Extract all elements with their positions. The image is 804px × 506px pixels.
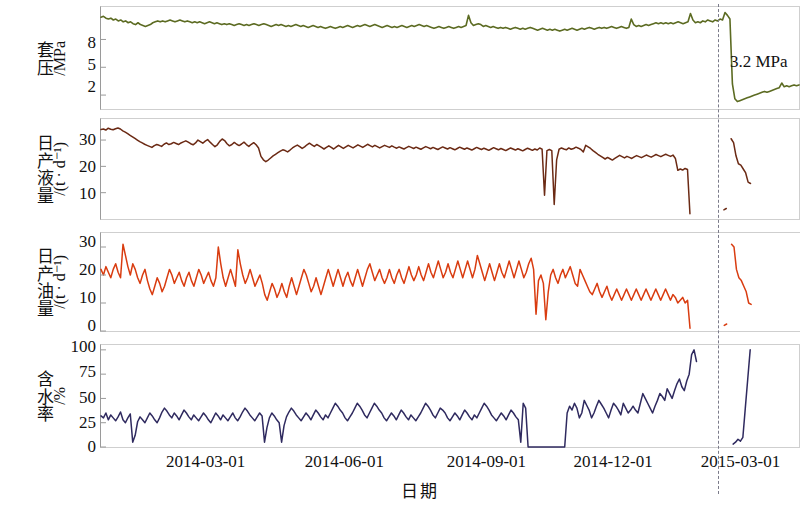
ytick-water-0: 0 (88, 438, 97, 455)
series-line-3 (733, 350, 750, 444)
ytick-column-daily-oil: 30 20 10 0 (50, 232, 96, 332)
xaxis-tick-3: 2014-12-01 (573, 452, 652, 472)
series-line-2 (724, 324, 726, 325)
ytick-liquid-20: 20 (79, 158, 96, 175)
ytick-water-100: 100 (71, 338, 97, 355)
ytick-column-casing-pressure: 8 5 2 (50, 6, 96, 110)
series-line-2 (732, 244, 752, 304)
xaxis-tick-2: 2014-09-01 (447, 452, 526, 472)
ytick-column-water-cut: 100 75 50 25 0 (42, 344, 96, 448)
xaxis-tick-1: 2014-06-01 (305, 452, 384, 472)
series-line-1 (101, 128, 690, 214)
ytick-water-75: 75 (79, 363, 96, 380)
plot-area-water-cut (100, 344, 800, 448)
ytick-water-25: 25 (79, 414, 96, 431)
ytick-liquid-10: 10 (79, 185, 96, 202)
ytick-liquid-30: 30 (79, 131, 96, 148)
plot-area-casing-pressure (100, 6, 800, 110)
ytick-oil-10: 10 (79, 289, 96, 306)
series-line-0 (101, 13, 799, 102)
series-line-1 (724, 208, 726, 209)
xaxis-tick-0: 2014-03-01 (166, 452, 245, 472)
ytick-column-daily-liquid: 30 20 10 (50, 118, 96, 220)
multi-panel-production-chart: 套压/MPa 8 5 2 日产液量/(t · d⁻¹) 30 20 10 日产油… (0, 0, 804, 506)
ytick-water-50: 50 (79, 389, 96, 406)
pressure-annotation-label: 3.2 MPa (730, 52, 788, 72)
ytick-casing-8: 8 (88, 34, 97, 51)
ytick-oil-30: 30 (79, 233, 96, 250)
series-line-1 (731, 139, 750, 184)
plot-area-daily-liquid (100, 118, 800, 220)
ytick-oil-20: 20 (79, 261, 96, 278)
plot-area-daily-oil (100, 232, 800, 332)
series-line-2 (101, 244, 690, 328)
xaxis-tick-4: 2015-03-01 (701, 452, 780, 472)
ytick-oil-0: 0 (88, 317, 97, 334)
xaxis-title: 日期 (401, 477, 439, 502)
series-line-3 (101, 350, 696, 447)
event-marker-line (718, 4, 719, 494)
ytick-casing-5: 5 (88, 56, 97, 73)
ytick-casing-2: 2 (88, 78, 97, 95)
